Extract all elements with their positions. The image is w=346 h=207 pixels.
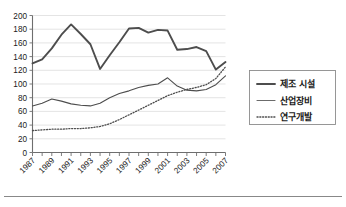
line-chart-canvas: 020406080100120140160180200 198719891991… [0, 0, 346, 207]
y-tick-label: 40 [18, 121, 28, 130]
legend-label-0: 제조 시설 [280, 78, 315, 89]
y-tick-label: 120 [13, 66, 27, 75]
chart-legend: 제조 시설산업장비연구개발 [250, 71, 336, 125]
y-tick-label: 140 [13, 53, 27, 62]
y-tick-label: 60 [18, 107, 28, 116]
legend-label-2: 연구개발 [280, 111, 313, 122]
chart-figure: 020406080100120140160180200 198719891991… [0, 0, 346, 207]
y-tick-label: 80 [18, 94, 28, 103]
x-tick-marks [33, 153, 226, 157]
y-tick-label: 0 [22, 149, 27, 158]
y-tick-label: 100 [13, 80, 27, 89]
y-tick-label: 180 [13, 25, 27, 34]
y-tick-label: 160 [13, 39, 27, 48]
y-tick-label: 20 [18, 135, 28, 144]
legend-label-1: 산업장비 [280, 95, 312, 106]
y-tick-label: 200 [13, 12, 27, 21]
